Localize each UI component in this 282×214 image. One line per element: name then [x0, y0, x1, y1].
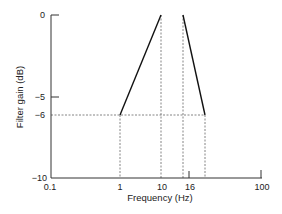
xtick-label-1: 1 — [117, 182, 122, 192]
ytick-label-0: 0 — [40, 10, 45, 20]
filter-gain-chart: 0 −5 −6 −10 0.1 1 10 16 100 Frequency (H… — [0, 0, 282, 214]
ytick-label-minus6: −6 — [35, 110, 45, 120]
data-series — [120, 15, 205, 115]
axes — [51, 15, 262, 178]
xtick-label-100: 100 — [254, 182, 269, 192]
ytick-label-minus5: −5 — [35, 92, 45, 102]
falling-edge — [183, 15, 205, 115]
xtick-label-0.1: 0.1 — [44, 182, 57, 192]
xtick-label-10: 10 — [157, 182, 167, 192]
y-axis-title: Filter gain (dB) — [14, 66, 25, 128]
x-axis-title: Frequency (Hz) — [127, 192, 192, 203]
rising-edge — [120, 15, 161, 115]
xtick-label-16: 16 — [185, 182, 195, 192]
